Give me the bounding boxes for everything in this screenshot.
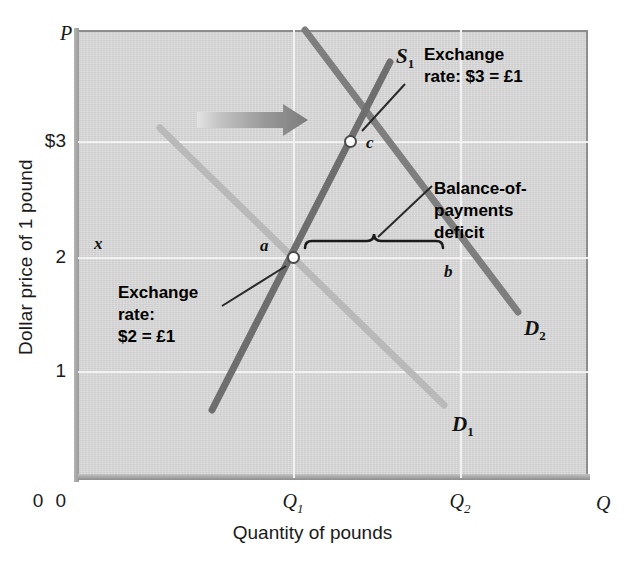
gridline-y-1 [78, 371, 588, 373]
curve-label-d1: D1 [452, 412, 474, 440]
x-axis-symbol: Q [596, 492, 610, 515]
plot-area [78, 30, 588, 478]
callout-exchange-rate-low: Exchange rate: $2 = £1 [118, 282, 198, 347]
x-axis-line [78, 474, 590, 480]
curve-label-d1-letter: D [452, 412, 467, 436]
curve-label-d2-letter: D [524, 316, 539, 340]
y-axis-title: Dollar price of 1 pound [15, 107, 37, 407]
callout-exchange-rate-high: Exchange rate: $3 = £1 [424, 44, 523, 88]
curve-label-d2: D2 [524, 316, 546, 344]
gridline-x-q2 [460, 30, 462, 478]
point-label-c: c [366, 133, 374, 153]
gridline-y-3 [78, 141, 588, 143]
x-marker-label: x [94, 234, 103, 254]
plot-texture [78, 32, 586, 478]
curve-label-s1-sub: 1 [408, 56, 415, 71]
x-tick-q2: Q2 [430, 490, 490, 517]
x-tick-q1: Q1 [263, 490, 323, 517]
x-axis-title: Quantity of pounds [0, 522, 625, 544]
x-tick-q2-letter: Q [450, 490, 464, 512]
equilibrium-point-c [344, 135, 357, 148]
x-tick-q1-sub: 1 [297, 501, 304, 516]
point-label-a: a [260, 236, 269, 256]
curve-label-d2-sub: 2 [539, 328, 546, 343]
curve-label-d1-sub: 1 [467, 424, 474, 439]
x-tick-q2-sub: 2 [464, 501, 471, 516]
curve-label-s1-letter: S [396, 44, 408, 68]
point-label-b: b [444, 262, 453, 282]
x-tick-0: 0 [8, 490, 68, 512]
exchange-rate-chart: P Q $3 2 1 0 0 Q1 Q2 Dollar price of 1 p… [0, 0, 625, 568]
equilibrium-point-a [287, 251, 300, 264]
y-axis-line [74, 28, 79, 482]
curve-label-s1: S1 [396, 44, 414, 72]
y-axis-symbol: P [60, 22, 72, 45]
x-tick-q1-letter: Q [283, 490, 297, 512]
gridline-y-2 [78, 257, 588, 259]
callout-deficit: Balance-of- payments deficit [434, 178, 527, 243]
